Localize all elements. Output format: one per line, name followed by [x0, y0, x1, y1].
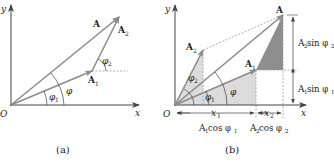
label-A1-sub: 1	[252, 64, 256, 71]
label-A2sin: A 2 sin φ 2	[297, 38, 334, 49]
label-A1-sub: 1	[95, 80, 99, 87]
origin-label: O	[0, 109, 8, 119]
label-A1sin: A 1 sin φ 1	[297, 84, 334, 95]
svg-text:cos φ: cos φ	[208, 123, 231, 133]
y-axis-label: y	[0, 4, 7, 14]
origin-label: O	[163, 109, 171, 119]
label-phi2-sub: 2	[194, 77, 198, 84]
shade-dark-triangle	[256, 15, 283, 70]
svg-text:2: 2	[285, 128, 289, 134]
svg-text:1: 1	[234, 128, 238, 134]
label-x2: x	[264, 108, 269, 118]
y-axis-label: y	[164, 4, 171, 14]
arc-phi1	[44, 91, 47, 105]
caption-a: (a)	[56, 144, 70, 155]
label-A2-sub: 2	[193, 47, 197, 54]
label-phi1-sub: 1	[55, 96, 59, 103]
caption-b: (b)	[225, 144, 239, 155]
label-x2-sub: 2	[270, 112, 274, 119]
x-axis-label: x	[135, 108, 140, 118]
svg-text:sin φ: sin φ	[307, 84, 328, 94]
svg-text:sin φ: sin φ	[307, 38, 328, 48]
label-A2cos: A 2 cos φ 2	[249, 123, 289, 134]
label-A1cos: A 1 cos φ 1	[198, 123, 238, 134]
svg-text:cos φ: cos φ	[259, 123, 282, 133]
label-phi1-sub: 1	[211, 96, 215, 103]
x-axis-label: x	[301, 108, 306, 118]
label-A: A	[92, 19, 101, 29]
label-phi: φ	[230, 87, 237, 97]
diagram-a: y x O A A 2 A 1 φ 1 φ φ 2 (a)	[0, 4, 140, 155]
label-phi: φ	[66, 86, 73, 96]
label-x1: x	[211, 108, 216, 118]
diagram-b: y x O A A 2 A 1 φ 2 φ 1 φ A 2 sin φ 2 A …	[163, 4, 334, 155]
label-A: A	[275, 5, 284, 15]
label-x1-sub: 1	[217, 112, 221, 119]
label-A2-sub: 2	[125, 30, 129, 37]
phasor-diagrams: y x O A A 2 A 1 φ 1 φ φ 2 (a)	[0, 0, 334, 164]
label-phi2-sub: 2	[108, 60, 112, 67]
